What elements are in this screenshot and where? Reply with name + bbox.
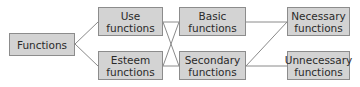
node-basic-functions: Basic functions: [179, 7, 246, 36]
node-functions-label: Functions: [17, 39, 67, 51]
edge-functions-esteem: [75, 44, 98, 66]
node-functions: Functions: [9, 33, 75, 56]
edge-secondary-necessary: [246, 22, 287, 66]
node-use-functions-label: Use functions: [106, 10, 154, 34]
node-necessary-functions-label: Necessary functions: [291, 10, 345, 34]
node-esteem-functions: Esteem functions: [98, 51, 163, 80]
node-secondary-functions: Secondary functions: [179, 51, 246, 80]
node-unnecessary-functions: Unnecessary functions: [287, 51, 350, 80]
function-classification-diagram: Functions Use functions Esteem functions…: [0, 0, 360, 87]
edge-functions-use: [75, 22, 98, 44]
node-necessary-functions: Necessary functions: [287, 7, 350, 36]
node-basic-functions-label: Basic functions: [188, 10, 236, 34]
node-secondary-functions-label: Secondary functions: [185, 54, 241, 78]
node-use-functions: Use functions: [98, 7, 163, 36]
node-unnecessary-functions-label: Unnecessary functions: [285, 54, 353, 78]
node-esteem-functions-label: Esteem functions: [106, 54, 154, 78]
